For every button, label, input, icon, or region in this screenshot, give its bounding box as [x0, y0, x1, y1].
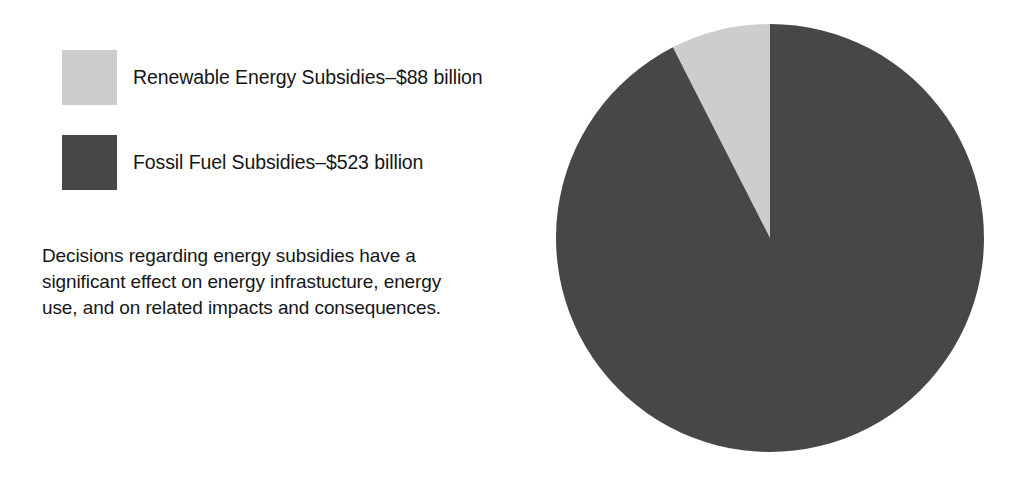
legend-swatch-renewable-icon: [62, 50, 117, 105]
legend-item-renewable-energy-subsidies: Renewable Energy Subsidies–$88 billion: [62, 50, 582, 105]
legend-label-renewable: Renewable Energy Subsidies–$88 billion: [133, 50, 483, 105]
chart-caption: Decisions regarding energy subsidies hav…: [42, 243, 542, 321]
pie-svg: Renewable Energy Subsidies – $88 billion…: [552, 18, 992, 463]
pie-chart-figure: Renewable Energy Subsidies–$88 billion F…: [0, 0, 1023, 479]
chart-legend: Renewable Energy Subsidies–$88 billion F…: [62, 50, 582, 220]
caption-line-1: Decisions regarding energy subsidies hav…: [42, 243, 542, 269]
caption-line-3: use, and on related impacts and conseque…: [42, 295, 542, 321]
caption-line-2: significant effect on energy infrastuctu…: [42, 269, 542, 295]
pie-chart-graphic: Renewable Energy Subsidies – $88 billion…: [552, 18, 992, 463]
legend-swatch-fossil-icon: [62, 135, 117, 190]
legend-item-fossil-fuel-subsidies: Fossil Fuel Subsidies–$523 billion: [62, 135, 582, 190]
legend-label-fossil: Fossil Fuel Subsidies–$523 billion: [133, 135, 423, 190]
